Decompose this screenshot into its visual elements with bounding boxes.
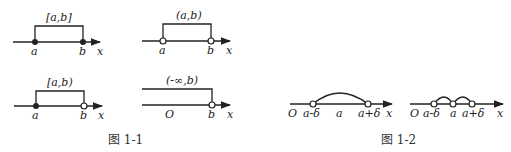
caption-figure-1-2: 图 1-2: [381, 133, 416, 147]
label-b: b: [208, 108, 215, 121]
panel-closed-interval: [a,b] a b x: [13, 11, 104, 58]
label-a-plus-delta: a+δ: [462, 107, 485, 120]
label-b: b: [207, 44, 214, 57]
axis-label-x: x: [97, 45, 104, 58]
label-b: b: [79, 45, 86, 58]
interval-label: [a,b): [47, 76, 73, 89]
label-a-minus-delta: a-δ: [303, 107, 320, 120]
panel-infinite-interval: (-∞,b) O b x: [142, 74, 234, 121]
origin-label: O: [165, 108, 174, 121]
label-a: a: [32, 109, 39, 122]
interval-label: (a,b): [176, 9, 202, 22]
label-a-plus-delta: a+δ: [358, 107, 381, 120]
panel-half-open-interval: [a,b) a b x: [14, 76, 105, 122]
caption-figure-1-1: 图 1-1: [108, 133, 143, 147]
label-a: a: [450, 107, 457, 120]
label-a: a: [31, 45, 38, 58]
origin-label: O: [410, 107, 419, 120]
axis-label-x: x: [386, 107, 393, 120]
axis-label-x: x: [98, 109, 105, 122]
label-b: b: [80, 109, 87, 122]
figure-canvas: [a,b] a b x (a,b) a b x [a,b) a b x (-∞,…: [0, 0, 511, 152]
interval-label: (-∞,b): [166, 74, 198, 87]
origin-label: O: [288, 107, 297, 120]
label-a: a: [159, 44, 166, 57]
label-a: a: [336, 107, 343, 120]
label-a-minus-delta: a-δ: [423, 107, 440, 120]
interval-label: [a,b]: [46, 11, 72, 24]
panel-deleted-neighborhood: O a-δ a a+δ x: [410, 97, 504, 120]
axis-label-x: x: [497, 107, 504, 120]
axis-label-x: x: [226, 44, 233, 57]
panel-open-interval: (a,b) a b x: [142, 9, 233, 57]
axis-label-x: x: [227, 108, 234, 121]
panel-neighborhood: O a-δ a a+δ x: [288, 93, 393, 120]
